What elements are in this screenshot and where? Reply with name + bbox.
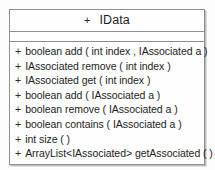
uml-class-box[interactable]: + IData + boolean add ( int index , IAss…	[9, 9, 205, 165]
operation-signature: IAssociated remove ( int index )	[25, 59, 170, 74]
operation-signature: int size ( )	[25, 132, 70, 147]
class-visibility-marker: +	[84, 15, 90, 26]
operation-visibility: +	[15, 88, 21, 103]
operation-signature: boolean add ( IAssociated a )	[25, 88, 160, 103]
uml-class-header: + IData	[10, 10, 204, 32]
operation-signature: boolean remove ( IAssociated a )	[25, 102, 177, 117]
uml-operations-compartment: + boolean add ( int index , IAssociated …	[10, 42, 204, 164]
operation-visibility: +	[15, 59, 21, 74]
operation-visibility: +	[15, 73, 21, 88]
uml-class-header-inner: + IData	[84, 14, 130, 27]
operation-visibility: +	[15, 117, 21, 132]
operation-row[interactable]: + boolean remove ( IAssociated a )	[10, 102, 204, 117]
uml-attributes-compartment	[10, 32, 204, 42]
operation-visibility: +	[15, 44, 21, 59]
operation-visibility: +	[15, 102, 21, 117]
operation-signature: IAssociated get ( int index )	[25, 73, 150, 88]
operation-signature: ArrayList<IAssociated> getAssociated ( )	[25, 146, 213, 161]
operation-row[interactable]: + IAssociated get ( int index )	[10, 73, 204, 88]
operation-row[interactable]: + ArrayList<IAssociated> getAssociated (…	[10, 146, 204, 161]
class-name: IData	[100, 14, 130, 27]
operation-signature: boolean add ( int index , IAssociated a …	[25, 44, 207, 59]
operation-signature: boolean contains ( IAssociated a )	[25, 117, 181, 132]
operation-row[interactable]: + boolean add ( int index , IAssociated …	[10, 44, 204, 59]
operation-visibility: +	[15, 146, 21, 161]
operation-row[interactable]: + boolean add ( IAssociated a )	[10, 88, 204, 103]
diagram-canvas: + IData + boolean add ( int index , IAss…	[0, 0, 215, 170]
operation-row[interactable]: + IAssociated remove ( int index )	[10, 59, 204, 74]
operation-visibility: +	[15, 132, 21, 147]
operation-row[interactable]: + boolean contains ( IAssociated a )	[10, 117, 204, 132]
operation-row[interactable]: + int size ( )	[10, 132, 204, 147]
